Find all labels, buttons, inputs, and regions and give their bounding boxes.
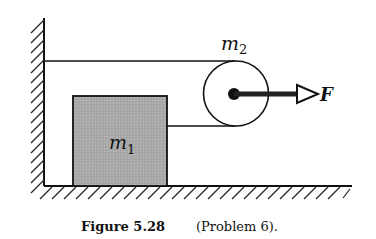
label-force: F (319, 84, 334, 105)
figure-caption: (Problem 6). (196, 219, 278, 234)
wall (31, 18, 44, 193)
floor (40, 186, 352, 199)
arrowhead-icon (297, 85, 318, 103)
physics-diagram: m2 m1 F Figure 5.28 (Problem 6). (0, 0, 376, 239)
figure-number: Figure 5.28 (81, 219, 165, 234)
wall-hatching (31, 20, 44, 193)
label-m2: m2 (221, 32, 247, 57)
floor-hatching (40, 187, 350, 199)
